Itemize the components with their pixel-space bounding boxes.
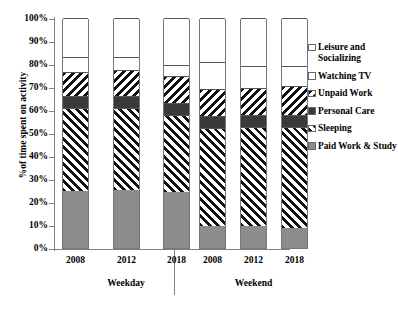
bar-stack[interactable] [240,19,267,249]
bar-segment[interactable] [164,76,189,103]
bar-stack[interactable] [113,19,140,249]
y-tick-label: 90% [6,37,48,47]
bar-segment[interactable] [164,115,189,192]
y-tick-label: 10% [6,221,48,231]
bar-stack[interactable] [281,19,308,249]
bar-segment[interactable] [200,18,225,62]
legend-swatch-icon [308,107,316,115]
bar-segment[interactable] [282,115,307,127]
y-tick-label: 70% [6,83,48,93]
legend-swatch-icon [308,44,316,52]
legend-item[interactable]: Personal Care [308,106,398,117]
bar-segment[interactable] [200,226,225,248]
bar-stack[interactable] [163,19,190,249]
bar-segment[interactable] [241,18,266,66]
legend-swatch-icon [308,90,316,98]
y-tick-label: 30% [6,175,48,185]
bar-segment[interactable] [241,226,266,248]
bar-segment[interactable] [114,57,139,70]
legend-label: Unpaid Work [318,88,372,99]
legend-item[interactable]: Watching TV [308,71,398,82]
bar-segment[interactable] [114,96,139,108]
bar-segment[interactable] [282,66,307,86]
bar-stack[interactable] [199,19,226,249]
legend-item[interactable]: Leisure and Socializing [308,42,398,64]
bar-segment[interactable] [63,72,88,96]
bar-segment[interactable] [241,66,266,88]
y-tick-label: 100% [6,14,48,24]
bar-segment[interactable] [63,191,88,248]
bar-segment[interactable] [282,228,307,248]
legend-label: Paid Work & Study [318,141,397,152]
y-tick-mark [49,249,55,250]
bar-segment[interactable] [63,108,88,191]
legend-label: Sleeping [318,123,352,134]
y-tick-label: 50% [6,129,48,139]
y-tick-label: 80% [6,60,48,70]
y-tick-label: 40% [6,152,48,162]
bar-segment[interactable] [241,88,266,116]
bar-segment[interactable] [114,18,139,57]
bar-segment[interactable] [63,57,88,72]
bar-segment[interactable] [282,86,307,115]
bar-segment[interactable] [63,96,88,108]
bar-segment[interactable] [114,190,139,248]
legend-item[interactable]: Paid Work & Study [308,141,398,152]
bar-segment[interactable] [164,18,189,65]
x-axis-group-label: Weekday [71,278,181,288]
bar-segment[interactable] [164,192,189,248]
x-tick-label: 2008 [48,255,104,265]
chart-legend: Leisure and SocializingWatching TVUnpaid… [308,42,398,158]
x-tick-label: 2018 [267,255,323,265]
bar-stack[interactable] [62,19,89,249]
legend-label: Watching TV [318,71,371,82]
x-axis-line [54,249,290,250]
x-tick-label: 2012 [99,255,155,265]
legend-item[interactable]: Unpaid Work [308,88,398,99]
legend-item[interactable]: Sleeping [308,123,398,134]
y-tick-label: 20% [6,198,48,208]
legend-label: Personal Care [318,106,374,117]
bar-segment[interactable] [164,103,189,115]
plot-area [55,19,289,249]
legend-label: Leisure and Socializing [318,42,398,64]
bar-segment[interactable] [200,89,225,116]
bar-segment[interactable] [164,65,189,76]
x-axis-group-label: Weekend [199,278,309,288]
legend-swatch-icon [308,142,316,150]
legend-swatch-icon [308,72,316,80]
bar-segment[interactable] [241,115,266,127]
legend-swatch-icon [308,125,316,133]
y-tick-label: 60% [6,106,48,116]
bar-segment[interactable] [282,127,307,228]
bar-segment[interactable] [114,70,139,96]
bar-segment[interactable] [200,116,225,128]
bar-segment[interactable] [114,108,139,189]
bar-segment[interactable] [200,128,225,226]
bar-segment[interactable] [241,127,266,226]
bar-segment[interactable] [63,18,88,57]
y-tick-label: 0% [6,244,48,254]
bar-segment[interactable] [200,62,225,89]
bar-segment[interactable] [282,18,307,66]
